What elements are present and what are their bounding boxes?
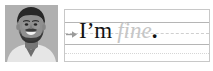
guide-line-descender <box>65 53 209 54</box>
practice-sentence[interactable]: I’mfine. <box>79 16 157 46</box>
portrait-photo <box>5 5 58 62</box>
sentence-period: . <box>152 18 158 43</box>
ghost-hint-text: fine <box>117 18 152 43</box>
handwriting-practice-card: I’mfine. <box>0 0 213 71</box>
typed-text: I’m <box>79 18 112 43</box>
portrait-photo-graphic <box>5 5 58 62</box>
handwriting-input-panel[interactable]: I’mfine. <box>64 9 210 62</box>
arrow-right-icon <box>66 30 78 39</box>
